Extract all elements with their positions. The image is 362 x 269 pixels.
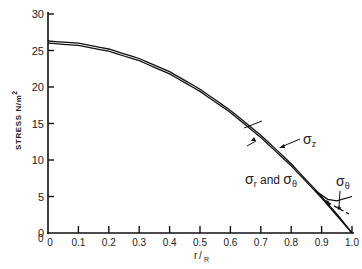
svg-text:σθ: σθ bbox=[336, 173, 350, 191]
x-ticks: 00.10.20.30.40.50.60.70.80.91.0 bbox=[47, 226, 359, 248]
x-tick-label: 0.2 bbox=[102, 237, 116, 248]
annotation-sz: σz bbox=[303, 131, 317, 149]
x-tick-label: 0.7 bbox=[254, 237, 268, 248]
y-axis-label: STRESS N/m2 bbox=[11, 90, 23, 150]
arrowhead-sr bbox=[251, 137, 256, 141]
x-tick-label: 0 bbox=[47, 237, 53, 248]
svg-text:σr and σθ: σr and σθ bbox=[245, 171, 297, 189]
arrowhead-sz bbox=[279, 144, 285, 148]
y-tick-label: 5 bbox=[38, 191, 44, 203]
x-tick-label: 0.4 bbox=[163, 237, 177, 248]
x-tick-label: 0.6 bbox=[223, 237, 237, 248]
annotation-st-edge: σθ bbox=[336, 173, 350, 191]
svg-text:σz: σz bbox=[303, 131, 317, 149]
y-tick-label: 20 bbox=[32, 81, 44, 93]
x-tick-label: 0.5 bbox=[193, 237, 207, 248]
x-tick-label: 0.1 bbox=[71, 237, 85, 248]
marker-st-edge bbox=[337, 206, 341, 210]
y-tick-label: 30 bbox=[32, 8, 44, 20]
x-tick-label: 0.3 bbox=[132, 237, 146, 248]
y-tick-label: 15 bbox=[32, 118, 44, 130]
svg-text:/: / bbox=[199, 250, 202, 261]
svg-text:STRESS N/m2: STRESS N/m2 bbox=[11, 90, 23, 150]
y-ticks: 051015202530 bbox=[32, 8, 54, 239]
y-tick-label: 10 bbox=[32, 154, 44, 166]
svg-text:r: r bbox=[194, 250, 198, 261]
annotation-sr-st: σr and σθ bbox=[240, 121, 297, 189]
y-tick-label: 25 bbox=[32, 45, 44, 57]
x-tick-label: 0.8 bbox=[284, 237, 298, 248]
x-tick-label: 1.0 bbox=[345, 237, 359, 248]
stress-chart: 051015202530 00.10.20.30.40.50.60.70.80.… bbox=[0, 0, 362, 269]
arrow-sr bbox=[247, 141, 256, 146]
svg-text:R: R bbox=[204, 256, 209, 263]
x-axis-label: r / R bbox=[194, 250, 209, 263]
x-tick-label: 0.9 bbox=[315, 237, 329, 248]
origin-label: 0 bbox=[38, 233, 44, 244]
arrow-st-edge bbox=[339, 191, 340, 207]
